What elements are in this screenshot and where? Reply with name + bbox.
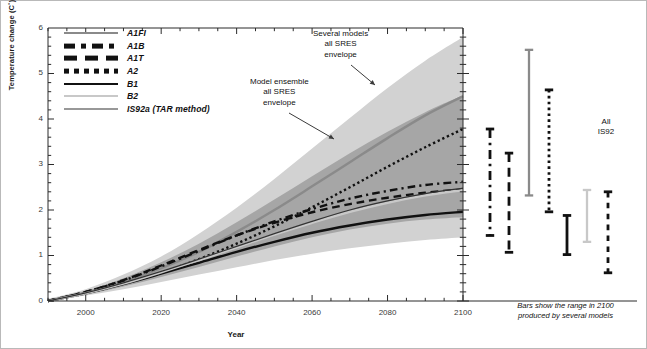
figure-frame: Temperature change (C˚) Year 0123456 200… bbox=[0, 0, 647, 349]
y-tick-label: 3 bbox=[31, 159, 43, 168]
legend-label: IS92a (TAR method) bbox=[127, 104, 210, 114]
legend-line-swatch bbox=[64, 78, 118, 90]
model-ensemble-arrow bbox=[289, 113, 334, 139]
caption-line: Bars show the range in 2100 bbox=[488, 301, 643, 311]
range-bars-group bbox=[486, 50, 612, 273]
legend-item-b2[interactable]: B2 bbox=[64, 90, 224, 103]
is92-label-line: IS92 bbox=[586, 127, 626, 137]
is92-label-line: All bbox=[586, 117, 626, 127]
y-tick-label: 5 bbox=[31, 68, 43, 77]
legend-item-a1t[interactable]: A1T bbox=[64, 52, 224, 65]
y-tick-label: 6 bbox=[31, 23, 43, 32]
annotation-line: Model ensemble bbox=[250, 77, 309, 87]
legend-label: A1B bbox=[127, 41, 145, 51]
y-tick-label: 4 bbox=[31, 114, 43, 123]
legend-item-a1b[interactable]: A1B bbox=[64, 40, 224, 53]
x-tick-label: 2100 bbox=[449, 308, 477, 317]
x-tick-label: 2060 bbox=[298, 308, 326, 317]
legend-line-swatch bbox=[64, 40, 118, 52]
legend-label: A1T bbox=[127, 53, 144, 63]
legend-label: A2 bbox=[127, 66, 138, 76]
legend-label: B2 bbox=[127, 91, 138, 101]
y-tick-label: 0 bbox=[31, 296, 43, 305]
legend-label: A1FI bbox=[127, 28, 146, 38]
legend: A1FIA1BA1TA2B1B2IS92a (TAR method) bbox=[64, 27, 224, 115]
caption-line: produced by several models bbox=[488, 311, 643, 321]
annotation-line: envelope bbox=[250, 98, 309, 108]
legend-item-a2[interactable]: A2 bbox=[64, 65, 224, 78]
annotation-line: Several models bbox=[313, 29, 368, 39]
legend-line-swatch bbox=[64, 52, 118, 64]
all-is92-label: AllIS92 bbox=[586, 117, 626, 137]
legend-line-swatch bbox=[64, 90, 118, 102]
legend-item-is92a-tar-method-[interactable]: IS92a (TAR method) bbox=[64, 103, 224, 116]
several-models-annotation: Several modelsall SRESenvelope bbox=[313, 29, 368, 60]
bars-caption: Bars show the range in 2100produced by s… bbox=[488, 301, 643, 321]
legend-line-swatch bbox=[64, 65, 118, 77]
model-ensemble-annotation: Model ensembleall SRESenvelope bbox=[250, 77, 309, 108]
legend-label: B1 bbox=[127, 79, 138, 89]
annotation-line: all SRES bbox=[313, 39, 368, 49]
y-tick-label: 1 bbox=[31, 250, 43, 259]
legend-line-swatch bbox=[64, 27, 118, 39]
x-tick-label: 2080 bbox=[374, 308, 402, 317]
legend-item-b1[interactable]: B1 bbox=[64, 77, 224, 90]
legend-line-swatch bbox=[64, 103, 118, 115]
annotation-line: all SRES bbox=[250, 87, 309, 97]
y-tick-label: 2 bbox=[31, 205, 43, 214]
x-tick-label: 2000 bbox=[72, 308, 100, 317]
legend-item-a1fi[interactable]: A1FI bbox=[64, 27, 224, 40]
x-tick-label: 2040 bbox=[223, 308, 251, 317]
annotation-line: envelope bbox=[313, 50, 368, 60]
x-tick-label: 2020 bbox=[147, 308, 175, 317]
